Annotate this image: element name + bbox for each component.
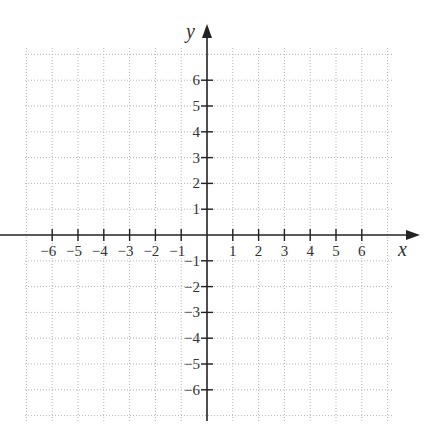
y-axis-label: y [184, 20, 195, 43]
x-tick-label: 4 [306, 243, 314, 259]
x-axis-label: x [397, 238, 407, 260]
x-tick-label: −5 [66, 243, 82, 259]
y-tick-label: 3 [193, 150, 201, 166]
y-tick-label: −6 [184, 382, 200, 398]
y-tick-label: 4 [193, 124, 201, 140]
x-tick-label: −4 [92, 243, 108, 259]
y-tick-label: −4 [184, 330, 200, 346]
x-tick-label: 5 [332, 243, 340, 259]
y-tick-label: 6 [193, 72, 201, 88]
x-tick-label: −1 [169, 243, 185, 259]
y-tick-label: −2 [184, 279, 200, 295]
x-axis-arrow-icon [406, 230, 420, 240]
y-tick-label: −5 [184, 356, 200, 372]
x-tick-label: 6 [358, 243, 366, 259]
y-tick-label: 5 [193, 98, 201, 114]
y-tick-label: −3 [184, 304, 200, 320]
x-tick-label: −6 [40, 243, 56, 259]
x-tick-label: 1 [229, 243, 237, 259]
y-axis-arrow-icon [202, 24, 212, 38]
y-tick-label: 1 [193, 201, 201, 217]
y-tick-label: −1 [184, 253, 200, 269]
x-tick-label: −3 [118, 243, 134, 259]
x-tick-label: −2 [143, 243, 159, 259]
coordinate-plane: −6−5−4−3−2−1123456654321−1−2−3−4−5−6 x y [0, 0, 436, 444]
y-tick-label: 2 [193, 175, 201, 191]
x-tick-label: 3 [281, 243, 289, 259]
x-tick-label: 2 [255, 243, 263, 259]
